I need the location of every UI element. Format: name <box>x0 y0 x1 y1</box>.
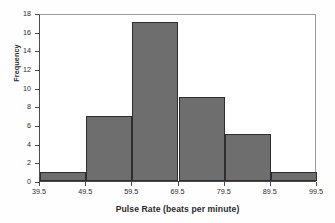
histogram-bar <box>132 22 178 181</box>
x-tick-mark <box>224 182 225 186</box>
y-tick-label: 14 <box>1 47 31 55</box>
x-axis-tick-group: 39.549.559.569.579.589.599.5 <box>39 182 316 202</box>
x-tick-mark <box>316 182 317 186</box>
x-tick-label: 49.5 <box>65 187 105 196</box>
plot-frame <box>39 14 316 182</box>
y-tick-label: 16 <box>1 29 31 37</box>
x-tick-mark <box>85 182 86 186</box>
y-tick-label: 8 <box>1 103 31 111</box>
histogram-bar <box>40 172 86 181</box>
y-tick-label: 18 <box>1 10 31 18</box>
y-tick-label: 2 <box>1 159 31 167</box>
plot-area <box>40 15 315 181</box>
x-tick-label: 99.5 <box>296 187 335 196</box>
histogram-bar <box>179 97 225 181</box>
histogram-bar <box>86 116 132 181</box>
x-tick-label: 59.5 <box>111 187 151 196</box>
x-tick-label: 79.5 <box>204 187 244 196</box>
x-tick-label: 39.5 <box>19 187 59 196</box>
y-tick-label: 12 <box>1 66 31 74</box>
x-tick-mark <box>270 182 271 186</box>
x-tick-mark <box>178 182 179 186</box>
x-tick-mark <box>131 182 132 186</box>
histogram-bar <box>225 134 271 181</box>
y-tick-label: 0 <box>1 178 31 186</box>
x-tick-mark <box>39 182 40 186</box>
y-tick-label: 4 <box>1 141 31 149</box>
x-axis-title: Pulse Rate (beats per minute) <box>39 204 316 214</box>
x-tick-label: 69.5 <box>158 187 198 196</box>
x-tick-label: 89.5 <box>250 187 290 196</box>
y-tick-label: 6 <box>1 122 31 130</box>
histogram-chart: Frequency 024681012141618 39.549.559.569… <box>0 0 335 223</box>
histogram-bar <box>271 172 317 181</box>
y-tick-label: 10 <box>1 85 31 93</box>
